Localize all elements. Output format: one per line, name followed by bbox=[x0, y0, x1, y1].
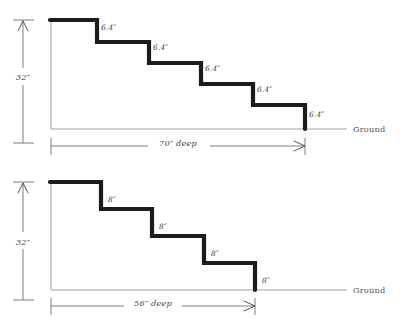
upper-depth-dimension: 70″ deep bbox=[51, 135, 305, 155]
lower-riser-label-1: 8″ bbox=[108, 195, 116, 204]
upper-ground-label: Ground bbox=[353, 124, 385, 134]
stair-comparison-figure: 6.4″ 6.4″ 6.4″ 6.4″ 6.4″ 32″ 70″ bbox=[0, 0, 409, 325]
upper-staircase-group: 6.4″ 6.4″ 6.4″ 6.4″ 6.4″ 32″ 70″ bbox=[12, 20, 385, 155]
lower-riser-label-3: 8″ bbox=[211, 249, 219, 258]
lower-ground-label: Ground bbox=[353, 285, 385, 295]
lower-depth-label: 56″ deep bbox=[134, 298, 172, 308]
lower-riser-label-2: 8″ bbox=[159, 222, 167, 231]
upper-riser-label-5: 6.4″ bbox=[309, 110, 324, 119]
lower-staircase-group: 8″ 8″ 8″ 8″ 32″ 56″ deep Ground bbox=[12, 182, 385, 315]
lower-height-dimension: 32″ bbox=[12, 182, 35, 300]
lower-depth-dimension: 56″ deep bbox=[51, 295, 255, 315]
upper-riser-label-3: 6.4″ bbox=[205, 64, 220, 73]
upper-height-dimension: 32″ bbox=[12, 20, 35, 143]
upper-depth-label: 70″ deep bbox=[159, 138, 197, 148]
upper-riser-label-1: 6.4″ bbox=[101, 23, 116, 32]
lower-stair-profile bbox=[50, 182, 255, 290]
lower-riser-label-4: 8″ bbox=[262, 276, 270, 285]
upper-stair-profile bbox=[50, 20, 305, 129]
diagram-canvas: 6.4″ 6.4″ 6.4″ 6.4″ 6.4″ 32″ 70″ bbox=[0, 0, 409, 325]
upper-riser-label-2: 6.4″ bbox=[153, 43, 168, 52]
upper-height-label: 32″ bbox=[16, 72, 30, 82]
upper-riser-label-4: 6.4″ bbox=[257, 85, 272, 94]
lower-height-label: 32″ bbox=[16, 237, 30, 247]
